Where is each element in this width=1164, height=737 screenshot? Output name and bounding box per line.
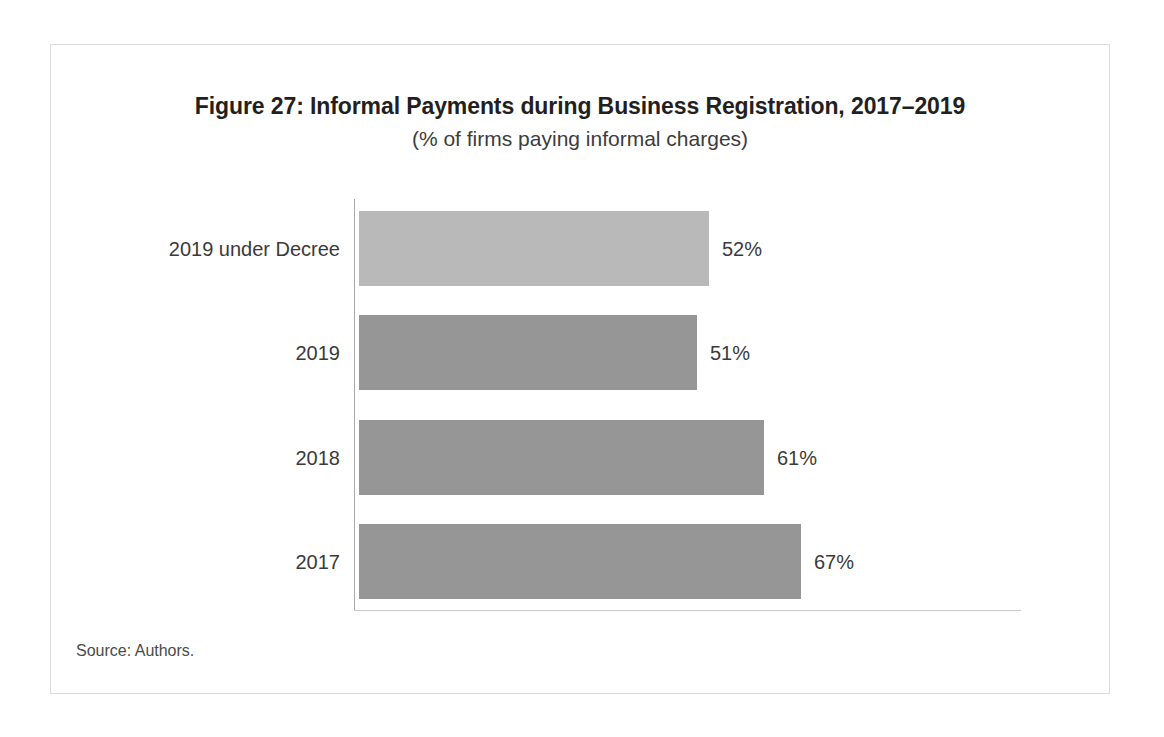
- bar-row: 2018 61%: [354, 420, 1021, 495]
- y-axis-tick-label: 2019: [296, 341, 341, 364]
- bar-value-label: 67%: [814, 550, 854, 573]
- bar-value-label: 52%: [722, 237, 762, 260]
- bar-value-label: 61%: [777, 446, 817, 469]
- figure-frame: Figure 27: Informal Payments during Busi…: [50, 44, 1110, 694]
- y-axis-tick-label: 2019 under Decree: [169, 237, 340, 260]
- bar-row: 2017 67%: [354, 524, 1021, 599]
- bar-value-label: 51%: [710, 341, 750, 364]
- y-axis-tick-label: 2018: [296, 446, 341, 469]
- bar-2019-under-decree[interactable]: [359, 211, 709, 286]
- bar-row: 2019 51%: [354, 315, 1021, 390]
- bar-row: 2019 under Decree 52%: [354, 211, 1021, 286]
- chart-subtitle: (% of firms paying informal charges): [51, 125, 1109, 152]
- page-title: Figure 27: Informal Payments during Busi…: [51, 92, 1109, 120]
- chart-plot-area: 2019 under Decree 52% 2019 51% 2018 61% …: [354, 199, 1021, 611]
- x-axis-line: [354, 610, 1021, 611]
- figure-title-block: Figure 27: Informal Payments during Busi…: [51, 92, 1109, 152]
- bar-2019[interactable]: [359, 315, 697, 390]
- y-axis-tick-label: 2017: [296, 550, 341, 573]
- bar-2018[interactable]: [359, 420, 764, 495]
- source-note: Source: Authors.: [76, 642, 194, 660]
- bar-2017[interactable]: [359, 524, 801, 599]
